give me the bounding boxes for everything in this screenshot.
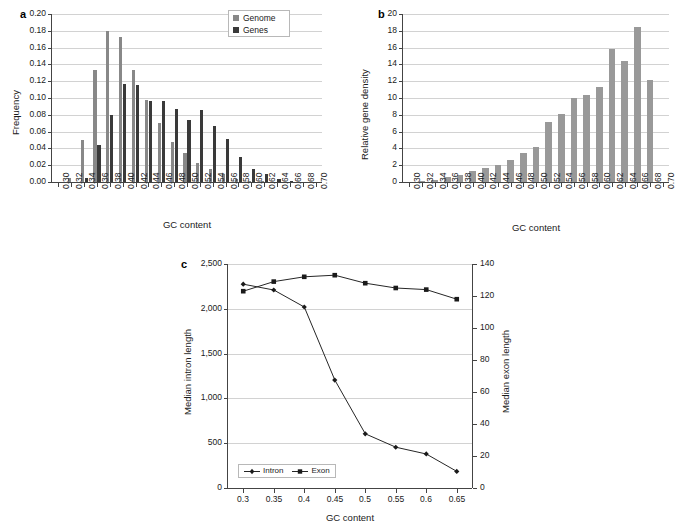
x-tick-mark (409, 183, 410, 187)
y-tick-mark-right (473, 456, 477, 457)
x-tick-mark (435, 183, 436, 187)
x-tick-mark (637, 183, 638, 187)
x-tick-label: 0.68 (654, 172, 663, 189)
x-tick-label: 0.50 (191, 172, 200, 189)
y-axis-line-right (472, 264, 473, 488)
x-tick-mark (187, 183, 188, 187)
gridline (403, 81, 669, 82)
legend-item-genes: Genes (233, 26, 285, 35)
x-tick-mark (264, 183, 265, 187)
panel-a-legend: GenomeGenes (228, 10, 290, 37)
legend-symbol-exon (292, 468, 308, 475)
marker-intron (363, 431, 368, 436)
x-tick-mark (277, 183, 278, 187)
x-tick-mark (625, 183, 626, 187)
y-tick-label-right: 80 (480, 355, 489, 364)
x-tick-mark (335, 489, 336, 493)
marker-intron (454, 469, 459, 474)
line-exon (243, 275, 456, 299)
x-tick-label: 0.46 (165, 172, 174, 189)
x-tick-mark (574, 183, 575, 187)
x-tick-mark (536, 183, 537, 187)
y-tick-label: 0.18 (10, 26, 46, 35)
y-tick-label-right: 100 (480, 323, 494, 332)
bar-gene-density (647, 80, 654, 182)
bar-genome (119, 37, 122, 182)
x-tick-mark (498, 183, 499, 187)
gridline (403, 132, 669, 133)
y-tick-label: 0 (361, 177, 397, 186)
y-tick-label: 18 (361, 26, 397, 35)
y-tick-label: 1,000 (186, 393, 222, 402)
gridline (403, 115, 669, 116)
x-tick-mark (447, 183, 448, 187)
x-tick-label: 0.34 (88, 172, 97, 189)
x-tick-mark (251, 183, 252, 187)
bar-gene-density (571, 98, 578, 182)
legend-swatch-genome (233, 15, 239, 21)
x-tick-mark (200, 183, 201, 187)
bar-genome (145, 100, 148, 182)
y-axis-line (51, 14, 52, 182)
x-tick-label: 0.44 (152, 172, 161, 189)
y-tick-label: 6 (361, 127, 397, 136)
x-tick-label: 0.70 (320, 172, 329, 189)
x-tick-label: 0.38 (464, 172, 473, 189)
x-tick-mark (460, 183, 461, 187)
bar-genes (162, 101, 165, 182)
x-tick-mark (243, 489, 244, 493)
bar-gene-density (583, 95, 590, 182)
bar-gene-density (609, 49, 616, 182)
gridline (403, 48, 669, 49)
x-tick-mark (58, 183, 59, 187)
x-tick-label: 0.50 (540, 172, 549, 189)
x-tick-mark (457, 489, 458, 493)
y-tick-mark-right (473, 392, 477, 393)
x-tick-mark (523, 183, 524, 187)
panel-a-x-axis-title: GC content (52, 219, 322, 230)
x-tick-mark (238, 183, 239, 187)
bar-genes (149, 101, 152, 182)
panel-a-plot-area (52, 14, 322, 182)
x-tick-mark (97, 183, 98, 187)
y-tick-label-right: 60 (480, 387, 489, 396)
x-tick-mark (274, 489, 275, 493)
marker-exon (332, 273, 337, 278)
x-tick-label: 0.32 (426, 172, 435, 189)
y-tick-label: 0.00 (10, 177, 46, 186)
y-tick-label: 0.08 (10, 110, 46, 119)
gridline (403, 64, 669, 65)
legend-item-intron: Intron (244, 467, 283, 475)
x-tick-label: 0.48 (178, 172, 187, 189)
y-tick-label: 14 (361, 59, 397, 68)
gridline (52, 48, 322, 49)
marker-intron (393, 445, 398, 450)
x-tick-mark (316, 183, 317, 187)
marker-exon (363, 281, 368, 286)
x-tick-label: 0.70 (667, 172, 676, 189)
legend-label-exon: Exon (311, 467, 329, 475)
x-tick-label: 0.54 (565, 172, 574, 189)
x-axis-line (228, 488, 472, 489)
y-tick-mark-right (473, 360, 477, 361)
legend-item-exon: Exon (292, 467, 329, 475)
bar-genome (93, 70, 96, 182)
legend-label-genes: Genes (243, 26, 268, 35)
x-tick-label: 0.52 (204, 172, 213, 189)
y-tick-label: 10 (361, 93, 397, 102)
x-tick-mark (123, 183, 124, 187)
x-tick-mark (485, 183, 486, 187)
x-tick-mark (71, 183, 72, 187)
x-tick-mark (161, 183, 162, 187)
x-tick-label: 0.42 (489, 172, 498, 189)
marker-intron (424, 451, 429, 456)
y-tick-label: 0.06 (10, 127, 46, 136)
y-tick-mark-right (473, 264, 477, 265)
y-axis-line (227, 264, 228, 488)
x-tick-label: 0.68 (307, 172, 316, 189)
x-tick-mark (599, 183, 600, 187)
y-tick-label: 12 (361, 76, 397, 85)
x-tick-label: 0.40 (127, 172, 136, 189)
marker-intron (302, 304, 307, 309)
x-tick-label: 0.38 (114, 172, 123, 189)
